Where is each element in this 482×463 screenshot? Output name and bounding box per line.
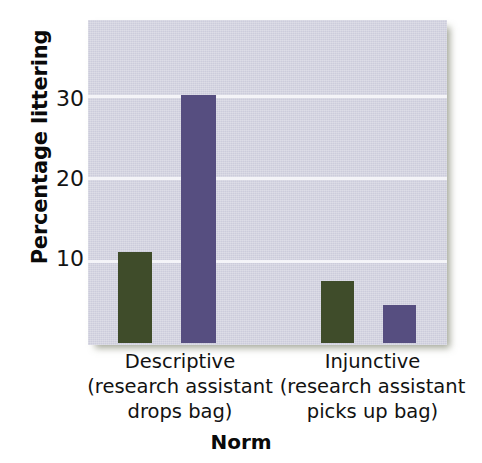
bar-chart-figure: Percentage littering 30 20 10 Descriptiv… [0,0,482,463]
gridline-20 [88,177,447,180]
plot-area [88,20,447,345]
x-category-descriptive-line1: Descriptive [70,349,290,374]
bar-injunctive-purple [383,305,416,343]
y-tick-label-30: 30 [40,88,84,110]
x-category-injunctive: Injunctive (research assistant picks up … [265,349,480,424]
x-category-descriptive-line3: drops bag) [70,399,290,424]
x-category-descriptive: Descriptive (research assistant drops ba… [70,349,290,424]
x-category-injunctive-line3: picks up bag) [265,399,480,424]
y-tick-label-20: 20 [40,168,84,190]
bar-injunctive-green [321,281,354,343]
x-axis-category-labels: Descriptive (research assistant drops ba… [0,349,482,427]
bar-descriptive-purple [181,95,216,343]
gridline-30 [88,95,447,98]
x-category-injunctive-line1: Injunctive [265,349,480,374]
x-axis-title: Norm [0,430,482,454]
x-category-descriptive-line2: (research assistant [70,374,290,399]
bar-descriptive-green [118,252,152,343]
y-tick-label-10: 10 [40,248,84,270]
x-category-injunctive-line2: (research assistant [265,374,480,399]
